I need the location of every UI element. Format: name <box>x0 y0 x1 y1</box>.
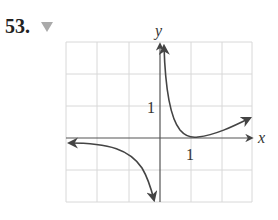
y-axis-label: y <box>153 22 163 40</box>
right-branch-curve <box>164 46 250 137</box>
graph: x y 1 1 <box>0 0 278 220</box>
y-tick-1: 1 <box>147 99 155 116</box>
x-tick-1: 1 <box>186 146 194 163</box>
grid <box>66 42 252 202</box>
left-branch-curve <box>69 143 154 200</box>
x-axis-label: x <box>257 129 265 146</box>
axes <box>66 44 252 202</box>
